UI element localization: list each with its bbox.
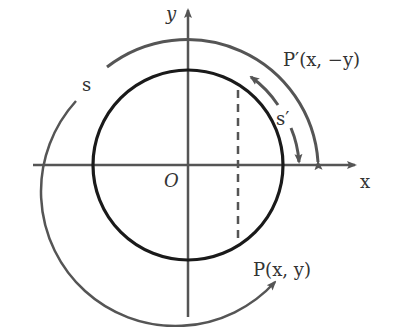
x-axis-label: x [360, 171, 370, 192]
arc-s-bottom [41, 101, 275, 326]
arc-s-prime-lower [291, 128, 299, 162]
point-p-prime-label: P′(x, −y) [283, 49, 360, 70]
arc-s-prime-label: s′ [276, 108, 289, 129]
origin-label: O [164, 170, 179, 191]
y-axis-label: y [165, 3, 177, 24]
arc-s-prime-upper [251, 77, 278, 105]
arc-s-label: s [82, 74, 91, 95]
point-p-label: P(x, y) [253, 259, 311, 280]
unit-circle-diagram: y x O s s′ P′(x, −y) P(x, y) [0, 0, 400, 327]
